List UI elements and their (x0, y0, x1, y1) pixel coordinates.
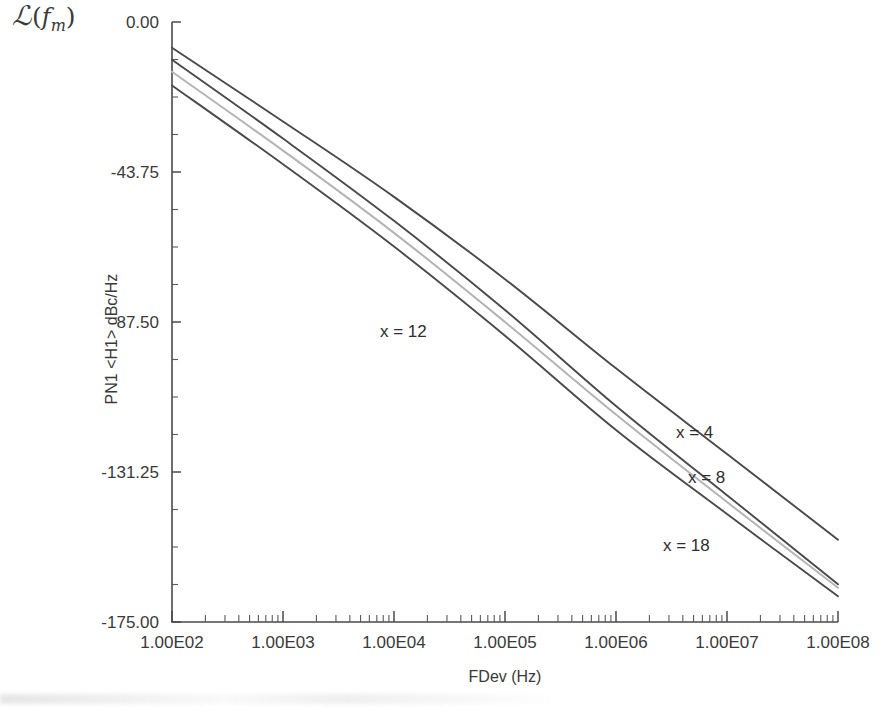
curve-x12 (172, 72, 838, 588)
y-axis-ticks (172, 22, 181, 622)
x-tick-label: 1.00E02 (140, 633, 203, 652)
y-tick-label: -175.00 (101, 613, 159, 632)
y-tick-label: -87.50 (111, 313, 159, 332)
x-tick-label: 1.00E08 (806, 633, 869, 652)
x-tick-label: 1.00E04 (362, 633, 425, 652)
y-axis-tick-labels: 0.00-43.75-87.50-131.25-175.00 (101, 13, 159, 632)
x-axis-title: FDev (Hz) (469, 668, 542, 685)
x-tick-label: 1.00E06 (584, 633, 647, 652)
y-tick-label: -131.25 (101, 463, 159, 482)
series-label-x8: x = 8 (688, 468, 725, 487)
curve-x4 (172, 48, 838, 540)
series-label-x12: x = 12 (380, 322, 427, 341)
curve-x18 (172, 85, 838, 596)
x-tick-label: 1.00E05 (473, 633, 536, 652)
plot-canvas: 0.00-43.75-87.50-131.25-175.00 1.00E021.… (0, 0, 887, 708)
series-label-x18: x = 18 (663, 536, 710, 555)
data-curves (172, 48, 838, 597)
series-label-x4: x = 4 (676, 423, 713, 442)
phase-noise-figure: ℒ(fm) PN1 <H1> dBc/Hz 0.00-43.75-87.50-1… (0, 0, 887, 708)
x-axis-tick-labels: 1.00E021.00E031.00E041.00E051.00E061.00E… (140, 633, 869, 652)
y-tick-label: -43.75 (111, 163, 159, 182)
x-tick-label: 1.00E07 (695, 633, 758, 652)
x-axis-ticks (172, 611, 838, 622)
x-tick-label: 1.00E03 (251, 633, 314, 652)
series-annotations: x = 4x = 8x = 12x = 18 (380, 322, 725, 555)
y-tick-label: 0.00 (126, 13, 159, 32)
